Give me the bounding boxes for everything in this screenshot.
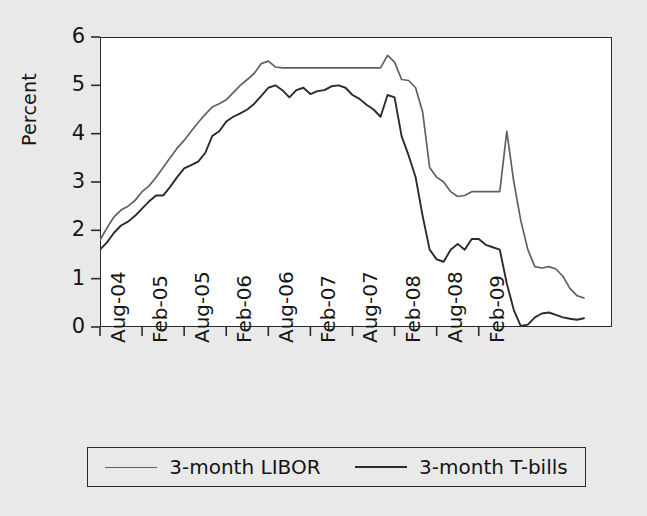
y-tick-label: 0 <box>59 316 85 337</box>
x-tick-label: Feb-05 <box>150 275 170 343</box>
legend-entry-tbills: 3-month T-bills <box>355 457 568 477</box>
x-tick-label: Aug-06 <box>276 271 296 343</box>
legend-swatch-libor <box>105 467 157 468</box>
y-tick-label: 5 <box>59 74 85 95</box>
legend-swatch-tbills <box>355 466 407 468</box>
plot-lines <box>100 37 612 327</box>
legend-entry-libor: 3-month LIBOR <box>105 457 320 477</box>
series-line <box>100 55 584 298</box>
y-tick-label: 6 <box>59 26 85 47</box>
x-tick-label: Aug-07 <box>360 271 380 343</box>
y-tick-label: 4 <box>59 123 85 144</box>
chart-figure: Percent 0123456 Aug-04Feb-05Aug-05Feb-06… <box>0 0 647 516</box>
x-tick-label: Aug-08 <box>445 271 465 343</box>
x-tick-label: Aug-05 <box>192 271 212 343</box>
x-tick-label: Feb-07 <box>318 275 338 343</box>
series-line <box>100 85 584 326</box>
legend-label-tbills: 3-month T-bills <box>419 457 568 477</box>
y-axis-title: Percent <box>18 6 44 146</box>
x-tick-label: Feb-09 <box>487 275 507 343</box>
y-tick-label: 2 <box>59 219 85 240</box>
y-tick-label: 1 <box>59 268 85 289</box>
x-tick-label: Feb-08 <box>403 275 423 343</box>
y-tick-label: 3 <box>59 171 85 192</box>
x-tick-label: Aug-04 <box>108 271 128 343</box>
legend-label-libor: 3-month LIBOR <box>169 457 320 477</box>
chart-legend: 3-month LIBOR 3-month T-bills <box>87 447 586 487</box>
x-tick-label: Feb-06 <box>234 275 254 343</box>
